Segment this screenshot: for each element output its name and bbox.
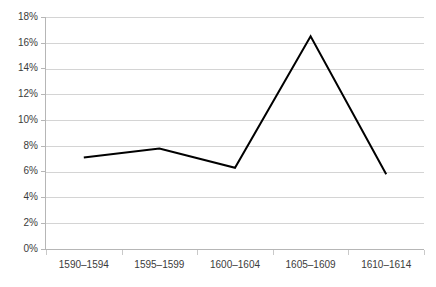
data-series-svg <box>0 0 436 287</box>
line-chart: 18% 16% 14% 12% 10% 8% 6% 4% 2% 0% <box>0 0 436 287</box>
data-series-line <box>84 36 386 174</box>
